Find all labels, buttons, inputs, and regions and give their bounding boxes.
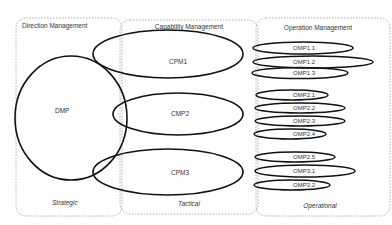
- region-capability-level: Tactical: [178, 200, 200, 207]
- node-cpm3: [93, 149, 243, 195]
- node-omp2-4-label: OMP2.4: [293, 131, 316, 137]
- region-direction-box: [16, 18, 122, 216]
- node-omp3-2-label: OMP3.2: [293, 182, 316, 188]
- management-diagram: Direction Management Capability Manageme…: [0, 0, 392, 225]
- region-direction-title: Direction Management: [22, 22, 88, 30]
- node-omp1-1-label: OMP1.1: [293, 45, 316, 51]
- region-operation-title: Operation Management: [284, 24, 352, 32]
- region-capability-box: [120, 20, 258, 214]
- region-direction-level: Strategic: [52, 199, 78, 207]
- node-omp3-1-label: OMP3.1: [293, 168, 316, 174]
- node-omp1-3-label: OMP1.3: [293, 70, 316, 76]
- node-omp2-4: [254, 129, 326, 139]
- node-cpm1: [93, 30, 243, 78]
- node-dmp-label: DMP: [55, 107, 69, 114]
- region-operation-level: Operational: [303, 202, 337, 210]
- node-cmp2-label: CMP2: [171, 110, 189, 117]
- node-omp2-5-label: OMP2.5: [293, 154, 316, 160]
- node-cpm1-label: CPM1: [169, 58, 187, 65]
- node-omp2-3-label: OMP2.3: [293, 118, 316, 124]
- node-omp2-2-label: OMP2.2: [293, 105, 316, 111]
- node-omp2-1-label: OMP2.1: [293, 92, 316, 98]
- node-cpm3-label: CPM3: [171, 169, 189, 176]
- node-omp1-2-label: OMP1.2: [293, 59, 316, 65]
- node-dmp: [15, 56, 127, 180]
